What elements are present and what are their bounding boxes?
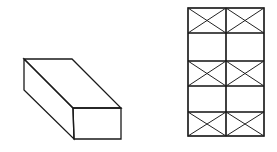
- braced-grid: [188, 8, 264, 136]
- box-side-face: [24, 59, 74, 139]
- box-top-face: [24, 59, 121, 108]
- isometric-box: [24, 59, 121, 139]
- diagram-canvas: [0, 0, 277, 152]
- box-front-face: [73, 108, 121, 139]
